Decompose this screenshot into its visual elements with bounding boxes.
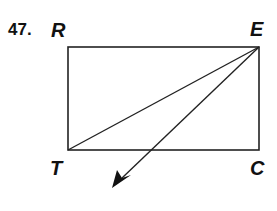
diagonal-te [68, 47, 259, 150]
geometry-figure [0, 0, 277, 211]
ray-from-e [122, 47, 259, 178]
